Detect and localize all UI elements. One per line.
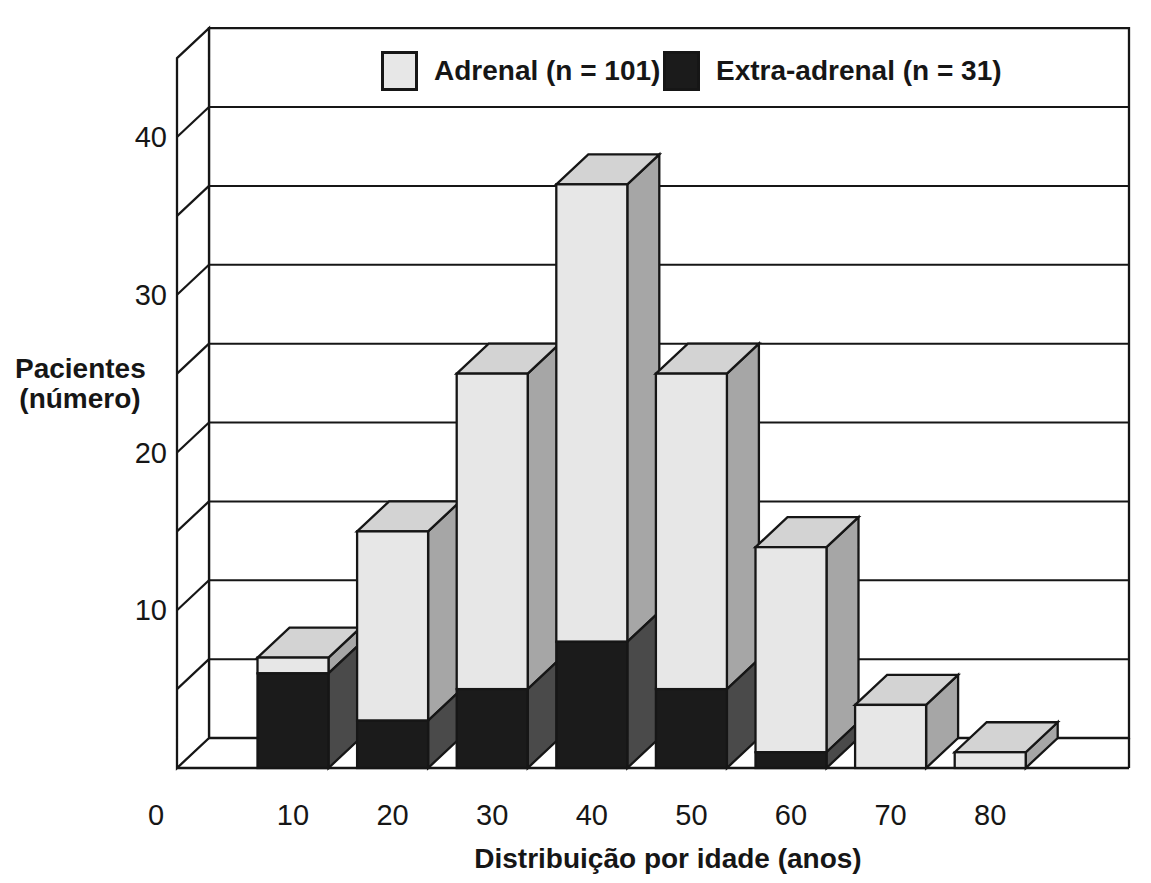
legend-label-adrenal: Adrenal (n = 101): [434, 55, 660, 87]
bar-10-extra-front: [258, 673, 329, 768]
bar-50: [656, 344, 759, 768]
bar-50-adrenal-side: [727, 344, 759, 690]
x-axis-title: Distribuição por idade (anos): [298, 843, 1038, 875]
extra-adrenal-swatch-icon: [663, 51, 700, 91]
y-tick-label-20: 20: [77, 438, 167, 468]
legend-item-adrenal: Adrenal (n = 101): [381, 51, 660, 91]
bar-70-adrenal-front: [855, 705, 926, 768]
x-tick-label-80: 80: [945, 800, 1035, 830]
x-tick-label-30: 30: [447, 800, 537, 830]
legend-label-extra-adrenal: Extra-adrenal (n = 31): [716, 55, 1002, 87]
bar-30-extra-front: [457, 689, 528, 768]
adrenal-swatch-icon: [381, 51, 418, 91]
bar-30: [457, 344, 560, 768]
x-tick-label-20: 20: [348, 800, 438, 830]
bar-10: [258, 628, 361, 768]
bar-40-adrenal-front: [556, 184, 627, 641]
x-tick-label-60: 60: [746, 800, 836, 830]
x-tick-label-50: 50: [646, 800, 736, 830]
bar-20-adrenal-front: [357, 531, 428, 720]
chart-canvas: [0, 0, 1151, 883]
bar-40-extra-front: [556, 642, 627, 768]
x-tick-label-0: 0: [111, 800, 201, 830]
y-tick-label-40: 40: [77, 122, 167, 152]
bar-20: [357, 501, 460, 768]
chart-figure: Adrenal (n = 101) Extra-adrenal (n = 31)…: [0, 0, 1151, 883]
bar-30-adrenal-front: [457, 374, 528, 690]
bar-10-adrenal-front: [258, 658, 329, 674]
y-tick-label-30: 30: [77, 280, 167, 310]
x-tick-label-70: 70: [846, 800, 936, 830]
bar-70: [855, 675, 958, 768]
y-axis-title: Pacientes (número): [15, 354, 145, 414]
x-tick-label-40: 40: [547, 800, 637, 830]
y-tick-label-10: 10: [77, 595, 167, 625]
bar-60: [756, 517, 859, 768]
bar-60-extra-front: [756, 752, 827, 768]
bar-80-adrenal-front: [955, 752, 1026, 768]
bar-50-adrenal-front: [656, 374, 727, 690]
bar-60-adrenal-side: [827, 517, 859, 752]
bar-40-adrenal-side: [627, 154, 659, 641]
legend-item-extra-adrenal: Extra-adrenal (n = 31): [663, 51, 1002, 91]
x-tick-label-10: 10: [248, 800, 338, 830]
y-axis-title-line2: (número): [19, 383, 140, 414]
left-wall: [177, 28, 209, 768]
bar-50-extra-front: [656, 689, 727, 768]
bar-20-extra-front: [357, 721, 428, 768]
y-axis-title-line1: Pacientes: [15, 353, 146, 384]
bar-20-adrenal-side: [428, 501, 460, 720]
bar-40: [556, 154, 659, 768]
bar-60-adrenal-front: [756, 547, 827, 752]
bar-30-adrenal-side: [528, 344, 560, 690]
